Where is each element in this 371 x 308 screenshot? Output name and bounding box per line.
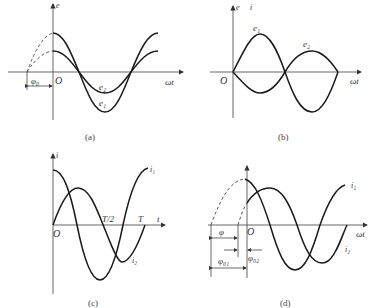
curve-e2-label: e₂: [303, 39, 310, 49]
curve-i1-label: i₁: [150, 165, 155, 174]
phase-diff-label: φ: [219, 227, 224, 237]
y-axis-label: i: [56, 151, 58, 160]
period-label: T: [138, 214, 144, 224]
y-axis-label: e: [56, 1, 60, 10]
panel-c: i t O T/2 T i₁ i₂ (c): [53, 151, 165, 308]
phase2-label: φ₀₂: [248, 253, 259, 263]
y-axis-label: e: [236, 3, 240, 12]
origin-label: O: [53, 228, 60, 239]
caption-c: (c): [88, 298, 98, 308]
x-axis-label: ωt: [165, 77, 174, 87]
origin-label: O: [247, 226, 254, 237]
panel-d: i ωt O φ φ₀₁ φ₀₂ i₁ i₂ (d): [208, 3, 367, 308]
x-axis-label: ωt: [350, 76, 359, 86]
i1-dashed-extension: [238, 203, 247, 225]
curve-e1-label: e₁: [99, 98, 106, 108]
panel-b: e ωt O e₁ e₂ (b): [210, 3, 361, 142]
curve-i1-label: i₁: [351, 181, 356, 190]
x-axis-label: ωt: [356, 229, 365, 239]
curve-e2-label: e₂: [99, 82, 106, 92]
panel-a: e ωt O φ₀ e₂ e₁ (a): [8, 1, 183, 142]
phase1-label: φ₀₁: [218, 256, 229, 266]
caption-b: (b): [278, 132, 289, 142]
curve-i2-label: i₂: [132, 256, 137, 265]
curve-e1: [233, 34, 338, 112]
caption-a: (a): [85, 132, 95, 142]
phase-label: φ₀: [31, 76, 39, 86]
sinusoid-figure: e ωt O φ₀ e₂ e₁ (a) e ωt O e₁ e₂ (b) i t…: [0, 0, 371, 308]
caption-d: (d): [280, 298, 291, 308]
x-axis-label: t: [157, 214, 160, 224]
origin-label: O: [55, 75, 62, 86]
curve-i2: [245, 179, 345, 270]
y-axis-label: i: [250, 3, 252, 12]
origin-label: O: [220, 75, 227, 86]
half-period-label: T/2: [102, 214, 115, 224]
curve-i2-label: i₂: [345, 245, 350, 254]
curve-e1-label: e₁: [253, 23, 260, 33]
